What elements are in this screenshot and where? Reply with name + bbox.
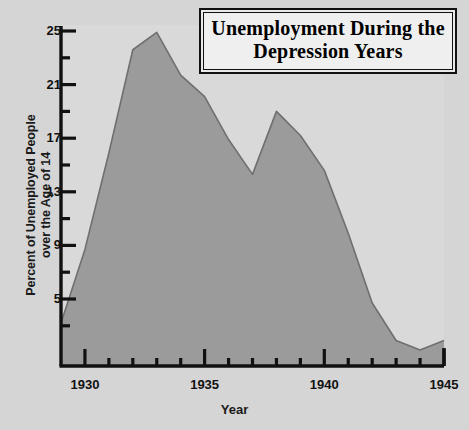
x-tick-label: 1930 xyxy=(50,378,120,391)
y-axis-title: Percent of Unemployed People over the Ag… xyxy=(24,80,54,330)
chart-figure: 5913172125 1930193519401945 Percent of U… xyxy=(0,0,469,430)
x-tick-label: 1945 xyxy=(409,378,469,391)
x-axis-title: Year xyxy=(0,402,469,417)
chart-title: Unemployment During the Depression Years xyxy=(203,12,453,70)
x-tick-label: 1935 xyxy=(170,378,240,391)
chart-title-box: Unemployment During the Depression Years xyxy=(199,8,457,74)
x-tick-label: 1940 xyxy=(289,378,359,391)
